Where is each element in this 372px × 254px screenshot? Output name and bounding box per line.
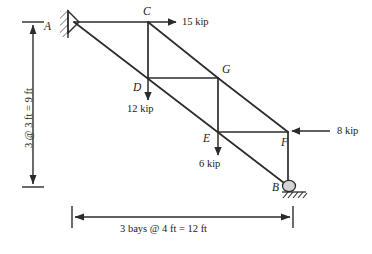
vertical-dimension — [22, 22, 44, 187]
pin-support — [60, 10, 79, 38]
truss-diagram-figure: A C D G E F B 15 kip 12 kip 6 kip 8 kip … — [0, 0, 372, 254]
roller-support-hatching — [283, 192, 307, 198]
roller-support-wheel — [283, 180, 296, 191]
pin-support-hatching — [60, 11, 68, 37]
member-A-B — [74, 22, 288, 186]
load-arrows — [148, 22, 330, 155]
member-C-G — [148, 22, 218, 78]
roller-support — [282, 180, 307, 198]
horizontal-dimension — [72, 206, 293, 228]
truss-members — [74, 22, 288, 186]
member-G-F — [218, 78, 288, 132]
truss-drawing — [0, 0, 372, 254]
